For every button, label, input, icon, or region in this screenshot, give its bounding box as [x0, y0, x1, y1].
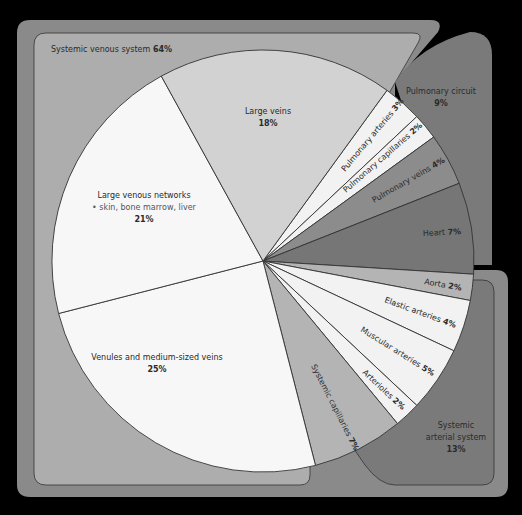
- svg-text:21%: 21%: [134, 215, 153, 224]
- svg-text:25%: 25%: [147, 365, 166, 374]
- label-large-veins: Large veins: [245, 107, 291, 116]
- label-large-venous-networks: Large venous networks: [97, 191, 190, 200]
- venous-group-label: Systemic venous system: [51, 45, 151, 54]
- blood-volume-pie-chart: Systemic venous system 64% Pulmonary cir…: [0, 0, 522, 515]
- arterial-group-label: Systemic: [438, 421, 474, 430]
- svg-text:13%: 13%: [446, 445, 465, 454]
- svg-text:9%: 9%: [434, 99, 448, 108]
- svg-text:arterial system: arterial system: [426, 433, 487, 442]
- pulmonary-group-label: Pulmonary circuit: [406, 87, 476, 96]
- svg-text:18%: 18%: [258, 119, 277, 128]
- svg-text:• skin, bone marrow, liver: • skin, bone marrow, liver: [92, 203, 197, 212]
- svg-text:Systemic venous system 64%: Systemic venous system 64%: [51, 45, 172, 54]
- label-venules: Venules and medium-sized veins: [91, 353, 222, 362]
